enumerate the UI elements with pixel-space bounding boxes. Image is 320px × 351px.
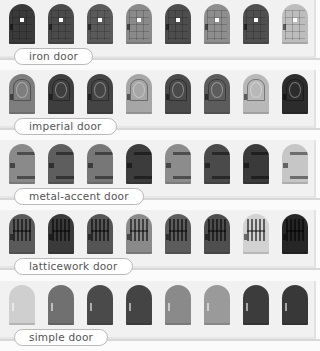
simple-door-variant-2[interactable] [48,285,74,325]
handle-icon [283,163,288,168]
section-label: metal-accent door [14,188,144,205]
handle-icon [129,303,131,311]
imperial-door-variant-8[interactable] [282,74,308,114]
iron-door-variant-3[interactable] [87,4,113,44]
grid-pattern-icon [168,10,188,40]
grid-pattern-icon [246,10,266,40]
metal-door-variant-7[interactable] [243,144,269,184]
handle-icon [166,163,171,168]
simple-door-variant-8[interactable] [282,285,308,325]
imperial-door-variant-2[interactable] [48,74,74,114]
metal-door-variant-1[interactable] [9,144,35,184]
iron-door-variant-6[interactable] [204,4,230,44]
handle-icon [90,303,92,311]
metal-door-variant-5[interactable] [165,144,191,184]
section-label: iron door [14,48,93,65]
handle-icon [49,234,52,240]
window-icon [254,18,258,22]
iron-door-variant-8[interactable] [282,4,308,44]
iron-door-variant-2[interactable] [48,4,74,44]
metal-strap-icon [134,176,152,179]
handle-icon [166,94,169,100]
section-iron-door: iron door [0,0,320,70]
window-icon [176,18,180,22]
handle-icon [10,234,13,240]
handle-icon [283,234,286,240]
iron-door-variant-5[interactable] [165,4,191,44]
handle-icon [88,94,91,100]
window-icon [59,18,63,22]
imperial-door-variant-7[interactable] [243,74,269,114]
lattice-door-variant-7[interactable] [243,214,269,254]
simple-door-variant-5[interactable] [165,285,191,325]
imperial-door-variant-1[interactable] [9,74,35,114]
metal-strap-icon [95,152,113,155]
section-label: imperial door [14,118,117,135]
grid-pattern-icon [129,10,149,40]
lattice-bars-icon [208,219,226,241]
imperial-door-variant-5[interactable] [165,74,191,114]
metal-strap-icon [173,176,191,179]
imperial-door-variant-3[interactable] [87,74,113,114]
handle-icon [205,234,208,240]
simple-door-variant-4[interactable] [126,285,152,325]
metal-door-variant-2[interactable] [48,144,74,184]
section-metal-accent-door: metal-accent door [0,140,320,210]
handle-icon [205,94,208,100]
simple-door-variant-1[interactable] [9,285,35,325]
metal-strap-icon [251,176,269,179]
ornament-icon [172,82,184,98]
imperial-door-variant-6[interactable] [204,74,230,114]
metal-strap-icon [212,152,230,155]
lattice-bars-icon [286,219,304,241]
ornament-icon [55,82,67,98]
handle-icon [244,24,247,30]
handle-icon [246,303,248,311]
handle-icon [168,303,170,311]
simple-door-variant-7[interactable] [243,285,269,325]
metal-strap-icon [251,152,269,155]
handle-icon [49,24,52,30]
metal-door-variant-3[interactable] [87,144,113,184]
lattice-bars-icon [91,219,109,241]
metal-door-variant-8[interactable] [282,144,308,184]
lattice-door-variant-5[interactable] [165,214,191,254]
section-simple-door: simple door [0,281,320,351]
grid-pattern-icon [285,10,305,40]
ornament-icon [16,82,28,98]
grid-pattern-icon [51,10,71,40]
grid-pattern-icon [12,10,32,40]
door-row [9,144,308,184]
window-icon [137,18,141,22]
grid-pattern-icon [90,10,110,40]
window-icon [98,18,102,22]
lattice-door-variant-2[interactable] [48,214,74,254]
iron-door-variant-1[interactable] [9,4,35,44]
iron-door-variant-7[interactable] [243,4,269,44]
simple-door-variant-3[interactable] [87,285,113,325]
handle-icon [49,94,52,100]
handle-icon [10,24,13,30]
window-icon [20,18,24,22]
imperial-door-variant-4[interactable] [126,74,152,114]
metal-door-variant-6[interactable] [204,144,230,184]
handle-icon [88,163,93,168]
lattice-bars-icon [52,219,70,241]
iron-door-variant-4[interactable] [126,4,152,44]
lattice-door-variant-4[interactable] [126,214,152,254]
ornament-icon [133,82,145,98]
section-label: simple door [14,329,108,346]
lattice-door-variant-6[interactable] [204,214,230,254]
section-imperial-door: imperial door [0,70,320,140]
lattice-bars-icon [169,219,187,241]
lattice-door-variant-8[interactable] [282,214,308,254]
lattice-bars-icon [247,219,265,241]
lattice-door-variant-3[interactable] [87,214,113,254]
metal-strap-icon [134,152,152,155]
handle-icon [283,24,286,30]
simple-door-variant-6[interactable] [204,285,230,325]
lattice-door-variant-1[interactable] [9,214,35,254]
handle-icon [244,234,247,240]
metal-door-variant-4[interactable] [126,144,152,184]
handle-icon [127,24,130,30]
